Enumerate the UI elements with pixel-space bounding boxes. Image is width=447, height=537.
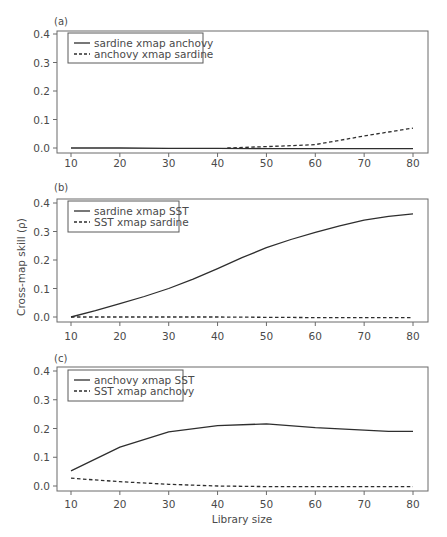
series-line-dashed [71, 478, 413, 486]
y-tick-label: 0.4 [33, 197, 50, 209]
y-tick-label: 0.0 [33, 311, 50, 323]
legend: sardine xmap anchovyanchovy xmap sardine [68, 33, 213, 63]
x-tick-label: 40 [211, 157, 224, 169]
legend: sardine xmap SSTSST xmap sardine [68, 201, 189, 232]
legend-label: anchovy xmap sardine [94, 48, 213, 60]
panel-label: (a) [54, 16, 68, 27]
x-tick-label: 50 [260, 498, 273, 510]
series-line-dashed [71, 317, 413, 318]
x-tick-label: 40 [211, 498, 224, 510]
y-tick-label: 0.1 [33, 451, 50, 463]
y-axis-title: Cross-map skill (ρ) [15, 218, 27, 316]
x-tick-label: 80 [406, 157, 419, 169]
y-tick-label: 0.1 [33, 114, 50, 126]
legend-label: SST xmap anchovy [94, 385, 194, 397]
cross-map-figure: (a)0.00.10.20.30.41020304050607080sardin… [0, 0, 447, 537]
y-tick-label: 0.2 [33, 85, 50, 97]
x-tick-label: 10 [64, 157, 77, 169]
y-tick-label: 0.2 [33, 423, 50, 435]
x-tick-label: 20 [113, 498, 126, 510]
y-tick-label: 0.2 [33, 254, 50, 266]
panel-c: (c)0.00.10.20.30.41020304050607080anchov… [33, 353, 428, 510]
x-tick-label: 70 [357, 330, 370, 342]
x-tick-label: 20 [113, 157, 126, 169]
panels: (a)0.00.10.20.30.41020304050607080sardin… [33, 16, 428, 510]
y-tick-label: 0.3 [33, 394, 50, 406]
x-tick-label: 70 [357, 157, 370, 169]
y-tick-label: 0.3 [33, 57, 50, 69]
x-tick-label: 60 [309, 498, 322, 510]
x-tick-label: 80 [406, 330, 419, 342]
panel-b: (b)0.00.10.20.30.41020304050607080sardin… [33, 182, 428, 342]
legend-label: SST xmap sardine [94, 216, 189, 228]
x-tick-label: 30 [162, 330, 175, 342]
panel-a: (a)0.00.10.20.30.41020304050607080sardin… [33, 16, 428, 169]
x-tick-label: 20 [113, 330, 126, 342]
series-line-dashed [227, 128, 413, 148]
y-tick-label: 0.4 [33, 28, 50, 40]
y-tick-label: 0.0 [33, 480, 50, 492]
x-tick-label: 10 [64, 498, 77, 510]
panel-label: (c) [54, 353, 67, 364]
x-tick-label: 10 [64, 330, 77, 342]
chart-canvas: (a)0.00.10.20.30.41020304050607080sardin… [0, 0, 447, 537]
x-axis-title: Library size [212, 513, 272, 525]
legend: anchovy xmap SSTSST xmap anchovy [68, 370, 195, 401]
panel-label: (b) [54, 182, 68, 193]
x-tick-label: 70 [357, 498, 370, 510]
y-tick-label: 0.3 [33, 226, 50, 238]
x-tick-label: 60 [309, 157, 322, 169]
x-tick-label: 60 [309, 330, 322, 342]
y-tick-label: 0.0 [33, 142, 50, 154]
x-tick-label: 50 [260, 157, 273, 169]
y-tick-label: 0.4 [33, 365, 50, 377]
x-tick-label: 80 [406, 498, 419, 510]
y-tick-label: 0.1 [33, 283, 50, 295]
x-tick-label: 30 [162, 157, 175, 169]
series-line-solid [71, 424, 413, 471]
x-tick-label: 50 [260, 330, 273, 342]
x-tick-label: 40 [211, 330, 224, 342]
x-tick-label: 30 [162, 498, 175, 510]
